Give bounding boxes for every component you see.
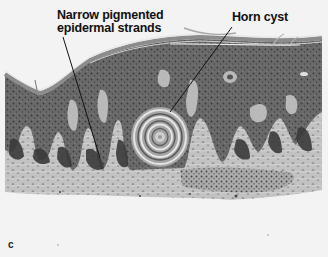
figure-panel: Narrow pigmented epidermal strands Horn … xyxy=(0,0,328,257)
panel-letter: c xyxy=(8,239,14,250)
horn-cyst xyxy=(131,107,189,167)
label-line-2: epidermal strands xyxy=(57,22,164,35)
label-narrow-pigmented-epidermal-strands: Narrow pigmented epidermal strands xyxy=(57,9,164,35)
skin-micrograph xyxy=(0,0,328,257)
label-horn-cyst: Horn cyst xyxy=(232,11,288,24)
